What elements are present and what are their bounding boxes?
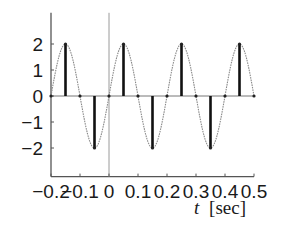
sampled-sine-chart: 210−1−2 −0.2−0.100.10.20.30.40.5 t [sec] [0, 0, 288, 234]
sample-point [252, 94, 255, 97]
sample-point [78, 94, 81, 97]
y-tick-label: −1 [21, 112, 43, 133]
sample-point [180, 42, 183, 45]
sample-point [151, 146, 154, 149]
sample-stems [49, 42, 255, 149]
x-axis-title: t [sec] [194, 197, 246, 218]
sample-point [238, 42, 241, 45]
sample-point [194, 94, 197, 97]
sample-point [136, 94, 139, 97]
sample-point [223, 94, 226, 97]
x-tick-label: 0 [104, 181, 115, 202]
y-tick-label: 2 [32, 34, 43, 55]
y-tick-label: 1 [32, 60, 43, 81]
svg-text:t [sec]: t [sec] [194, 197, 246, 218]
x-axis-unit: [sec] [209, 197, 246, 218]
x-axis-variable: t [194, 197, 200, 218]
sample-point [49, 94, 52, 97]
x-tick-label: −0.1 [61, 181, 99, 202]
sample-point [93, 146, 96, 149]
x-tick-label: 0.2 [154, 181, 180, 202]
sample-point [209, 146, 212, 149]
sample-point [165, 94, 168, 97]
plot-area: 210−1−2 −0.2−0.100.10.20.30.40.5 [21, 13, 267, 202]
y-ticks: 210−1−2 [21, 34, 54, 159]
sample-point [107, 94, 110, 97]
x-tick-label: 0.1 [125, 181, 151, 202]
y-tick-label: −2 [21, 138, 43, 159]
sample-point [122, 42, 125, 45]
y-tick-label: 0 [32, 86, 43, 107]
sample-point [64, 42, 67, 45]
